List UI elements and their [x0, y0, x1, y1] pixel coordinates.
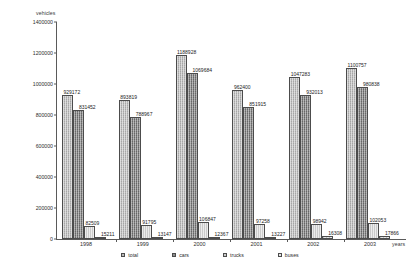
bar-group-bars: 110075798083810205317866	[346, 22, 398, 239]
bar-value-label: 1188928	[177, 50, 196, 55]
bar-value-label: 15211	[101, 232, 115, 237]
bar-group: 10472839320139894216308	[289, 22, 341, 239]
bar-cars[interactable]: 932013	[300, 95, 311, 239]
bar-value-label: 851915	[249, 102, 266, 107]
y-tick-mark	[54, 208, 57, 209]
x-tick-mark	[287, 239, 288, 242]
bar-value-label: 16308	[328, 231, 342, 236]
bar-trucks[interactable]: 102053	[368, 223, 379, 239]
legend-item-cars[interactable]: cars	[172, 252, 189, 258]
bar-value-label: 831452	[79, 105, 96, 110]
bar-value-label: 102053	[370, 218, 387, 223]
bar-cars[interactable]: 788967	[130, 117, 141, 239]
legend-label: buses	[285, 252, 299, 258]
bar-total[interactable]: 929172	[62, 95, 73, 239]
y-tick-mark	[54, 53, 57, 54]
bar-value-label: 98942	[313, 219, 327, 224]
bar-total[interactable]: 1188928	[176, 55, 187, 239]
y-tick-label: 0	[50, 236, 53, 242]
x-tick-label: 2003	[364, 241, 376, 247]
bar-value-label: 17866	[385, 231, 399, 236]
bar-chart: vehicles years 0200000400000600000800000…	[0, 0, 420, 277]
bar-trucks[interactable]: 91795	[141, 225, 152, 239]
bar-value-label: 962400	[234, 85, 251, 90]
legend-label: trucks	[230, 252, 244, 258]
bar-buses[interactable]: 16308	[322, 236, 333, 239]
bar-value-label: 82509	[86, 221, 100, 226]
bar-trucks[interactable]: 82509	[84, 226, 95, 239]
bar-group-bars: 10472839320139894216308	[289, 22, 341, 239]
y-axis-title: vehicles	[36, 10, 56, 16]
bar-value-label: 980838	[363, 82, 380, 87]
bar-group: 9624008519159725813227	[232, 22, 284, 239]
bar-group-bars: 8938197889679179513147	[119, 22, 171, 239]
x-axis-line	[56, 239, 406, 240]
bar-group-bars: 9624008519159725813227	[232, 22, 284, 239]
bar-group-bars: 1188928106968410684712367	[176, 22, 228, 239]
y-tick-label: 1400000	[33, 19, 53, 25]
bar-trucks[interactable]: 98942	[311, 224, 322, 239]
legend-swatch-icon	[223, 253, 227, 257]
bar-value-label: 97258	[256, 219, 270, 224]
bar-group: 8938197889679179513147	[119, 22, 171, 239]
y-tick-mark	[54, 239, 57, 240]
bar-group-bars: 9291728314528250915211	[62, 22, 114, 239]
bar-value-label: 12367	[215, 232, 229, 237]
legend-swatch-icon	[278, 253, 282, 257]
bar-group: 9291728314528250915211	[62, 22, 114, 239]
bar-total[interactable]: 893819	[119, 100, 130, 239]
bar-total[interactable]: 1100757	[346, 68, 357, 239]
bar-value-label: 106847	[199, 217, 216, 222]
x-tick-label: 2002	[307, 241, 319, 247]
bar-buses[interactable]: 13227	[265, 237, 276, 239]
y-tick-label: 400000	[36, 174, 53, 180]
bar-value-label: 929172	[64, 90, 81, 95]
legend-item-buses[interactable]: buses	[278, 252, 299, 258]
bar-group: 110075798083810205317866	[346, 22, 398, 239]
chart-legend: totalcarstrucksbuses	[0, 252, 420, 258]
bar-value-label: 13227	[271, 232, 285, 237]
bar-value-label: 91795	[142, 220, 156, 225]
legend-item-trucks[interactable]: trucks	[223, 252, 244, 258]
plot-area: 0200000400000600000800000100000012000001…	[56, 22, 406, 240]
legend-item-total[interactable]: total	[121, 252, 138, 258]
bar-value-label: 1100757	[348, 63, 367, 68]
legend-label: total	[128, 252, 138, 258]
bar-cars[interactable]: 1069684	[187, 73, 198, 239]
legend-swatch-icon	[121, 253, 125, 257]
bar-total[interactable]: 1047283	[289, 77, 300, 239]
y-tick-mark	[54, 115, 57, 116]
bar-buses[interactable]: 12367	[209, 237, 220, 239]
y-tick-label: 800000	[36, 112, 53, 118]
y-tick-label: 1000000	[33, 81, 53, 87]
x-tick-mark	[230, 239, 231, 242]
y-tick-label: 200000	[36, 205, 53, 211]
bar-value-label: 932013	[306, 90, 323, 95]
bar-value-label: 893819	[120, 95, 137, 100]
bar-cars[interactable]: 851915	[243, 107, 254, 239]
bar-group: 1188928106968410684712367	[176, 22, 228, 239]
bar-value-label: 788967	[136, 112, 153, 117]
bar-trucks[interactable]: 97258	[254, 224, 265, 239]
y-tick-label: 600000	[36, 143, 53, 149]
bar-total[interactable]: 962400	[232, 90, 243, 239]
legend-swatch-icon	[172, 253, 176, 257]
x-tick-label: 2000	[194, 241, 206, 247]
x-tick-mark	[173, 239, 174, 242]
x-tick-mark	[344, 239, 345, 242]
x-tick-label: 1999	[137, 241, 149, 247]
bar-value-label: 13147	[158, 232, 172, 237]
y-tick-label: 1200000	[33, 50, 53, 56]
bar-trucks[interactable]: 106847	[198, 222, 209, 239]
bar-buses[interactable]: 15211	[95, 237, 106, 239]
y-tick-mark	[54, 22, 57, 23]
bar-value-label: 1069684	[193, 68, 212, 73]
bar-buses[interactable]: 17866	[379, 236, 390, 239]
bar-cars[interactable]: 980838	[357, 87, 368, 239]
x-tick-label: 1998	[80, 241, 92, 247]
x-tick-mark	[116, 239, 117, 242]
bar-cars[interactable]: 831452	[73, 110, 84, 239]
y-tick-mark	[54, 146, 57, 147]
x-tick-label: 2001	[250, 241, 262, 247]
bar-buses[interactable]: 13147	[152, 237, 163, 239]
